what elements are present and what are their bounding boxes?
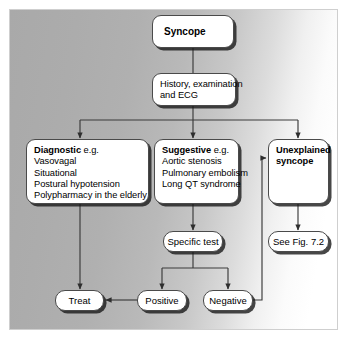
node-syncope-label: Syncope [164, 26, 206, 38]
node-treat[interactable]: Treat [55, 290, 104, 311]
node-diagnostic-heading: Diagnostic e.g. [34, 145, 142, 156]
node-diagnostic-item: Postural hypotension [34, 179, 142, 190]
node-history-line1: History, examination [160, 79, 229, 90]
node-diagnostic-item: Situational [34, 168, 142, 179]
node-negative[interactable]: Negative [203, 290, 253, 311]
node-suggestive-item: Pulmonary embolism [162, 168, 232, 179]
node-suggestive-lead: Suggestive [162, 145, 211, 155]
node-syncope[interactable]: Syncope [152, 15, 234, 48]
node-specific-test-label: Specific test [167, 236, 218, 248]
node-diagnostic-item: Vasovagal [34, 156, 142, 167]
node-suggestive-heading: Suggestive e.g. [162, 145, 232, 156]
node-see-fig-reference[interactable]: See Fig. 7.2 [268, 231, 329, 252]
node-negative-label: Negative [209, 295, 247, 307]
node-see-fig-label: See Fig. 7.2 [273, 236, 324, 248]
node-diagnostic[interactable]: Diagnostic e.g. Vasovagal Situational Po… [26, 139, 149, 204]
flowchart-figure: Syncope History, examination and ECG Dia… [0, 0, 347, 339]
node-specific-test[interactable]: Specific test [163, 231, 223, 252]
node-unexplained-line2: syncope [276, 156, 322, 167]
node-positive-label: Positive [145, 295, 178, 307]
node-diagnostic-lead-suffix: e.g. [81, 145, 99, 155]
node-suggestive[interactable]: Suggestive e.g. Aortic stenosis Pulmonar… [154, 139, 239, 204]
node-diagnostic-item: Polypharmacy in the elderly [34, 190, 142, 201]
node-suggestive-item: Long QT syndrome [162, 179, 232, 190]
node-history-examination-ecg[interactable]: History, examination and ECG [152, 73, 236, 106]
node-diagnostic-lead: Diagnostic [34, 145, 81, 155]
node-positive[interactable]: Positive [137, 290, 187, 311]
node-treat-label: Treat [69, 295, 91, 307]
node-history-line2: and ECG [160, 90, 229, 101]
node-unexplained-line1: Unexplained [276, 145, 322, 156]
node-suggestive-lead-suffix: e.g. [211, 145, 229, 155]
node-unexplained-syncope[interactable]: Unexplained syncope [268, 139, 329, 204]
node-suggestive-item: Aortic stenosis [162, 156, 232, 167]
